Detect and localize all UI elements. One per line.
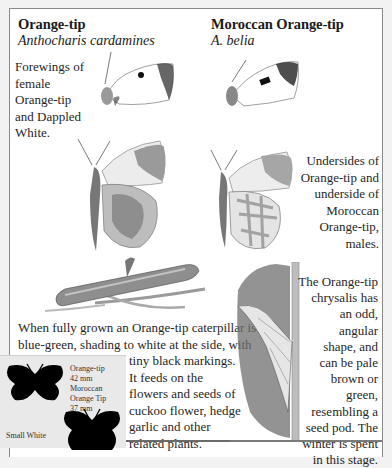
caption-line: angular	[290, 323, 378, 339]
caption-line: chrysalis has	[290, 290, 378, 306]
caption-line: Orange-tip	[15, 92, 95, 109]
size-label: Orange-tip	[70, 364, 125, 374]
butterfly-underside-icon	[203, 148, 293, 258]
caption-line: seed pod. The	[290, 420, 378, 436]
divider-rule	[230, 440, 382, 442]
species-latin-orange-tip: Anthocharis cardamines	[18, 33, 155, 49]
butterfly-underside-icon	[68, 135, 173, 255]
caption-line: resembling a	[290, 404, 378, 420]
caption-line: female	[15, 76, 95, 93]
size-label: 42 mm	[70, 374, 125, 384]
size-label: Orange Tip	[70, 394, 125, 404]
butterfly-forewing-icon	[85, 48, 180, 113]
caption-line: brown or	[290, 371, 378, 387]
caterpillar-caption: When fully grown an Orange-tip caterpill…	[18, 320, 258, 353]
caption-line: Moroccan	[282, 203, 379, 220]
caption-line: males.	[282, 236, 379, 253]
undersides-caption: Undersides of Orange-tip and underside o…	[282, 153, 379, 252]
caption-line: Undersides of	[282, 153, 379, 170]
forewings-caption: Forewings of female Orange-tip and Dappl…	[15, 59, 95, 142]
small-white-label: Small White	[6, 431, 46, 441]
species-latin-moroccan-orange-tip: A. belia	[211, 33, 255, 49]
species-title-moroccan-orange-tip: Moroccan Orange-tip	[211, 16, 344, 33]
size-label: Moroccan	[70, 384, 125, 394]
species-title-orange-tip: Orange-tip	[18, 16, 85, 33]
caption-line: The Orange-tip	[290, 274, 378, 290]
butterfly-silhouette-icon	[5, 362, 65, 402]
caption-line: shape, and	[290, 339, 378, 355]
caption-line: Orange-tip,	[282, 219, 379, 236]
size-comparison-panel: Orange-tip 42 mm Moroccan Orange Tip 37 …	[0, 355, 126, 448]
caterpillar-icon	[35, 255, 235, 315]
caption-line: can be pale	[290, 355, 378, 371]
caption-line: underside of	[282, 186, 379, 203]
caption-line: When fully grown an Orange-tip caterpill…	[18, 320, 258, 337]
caption-line: Forewings of	[15, 59, 95, 76]
butterfly-silhouette-icon	[62, 406, 122, 451]
caption-line: an odd,	[290, 306, 378, 322]
caption-line: blue-green, shading to white at the side…	[18, 337, 258, 354]
caption-line: and Dappled	[15, 109, 95, 126]
caption-line: Orange-tip and	[282, 170, 379, 187]
caption-line: green,	[290, 387, 378, 403]
caption-line: winter is spent	[290, 436, 378, 452]
chrysalis-caption: The Orange-tip chrysalis has an odd, ang…	[290, 274, 378, 468]
caption-line: in this stage.	[290, 452, 378, 468]
butterfly-forewing-icon	[210, 52, 300, 112]
